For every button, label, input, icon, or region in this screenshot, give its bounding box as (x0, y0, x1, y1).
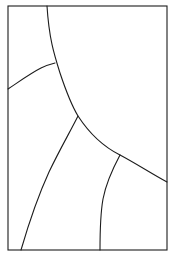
figure-container (0, 0, 175, 266)
line-art-diagram (0, 0, 175, 266)
bounding-rectangle (8, 6, 167, 250)
